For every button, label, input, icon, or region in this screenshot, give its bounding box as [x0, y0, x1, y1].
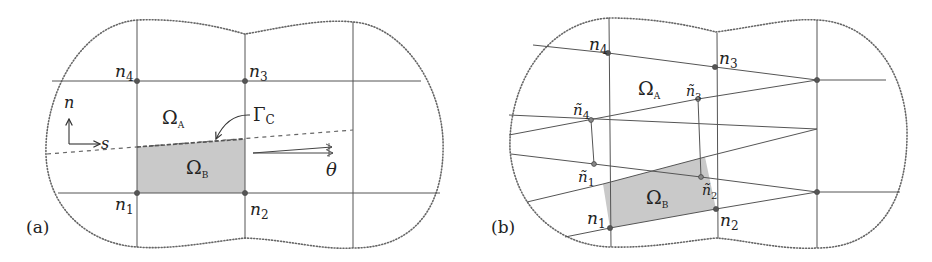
- label-theta: θ: [326, 159, 337, 180]
- label-tilde-n1: ñ1: [578, 168, 595, 189]
- node-n4-a: [134, 78, 139, 83]
- panel-b: (b) n4 n3 n1 n2 ñ4 ñ3 ñ1 ñ2 ΩA ΩB: [491, 18, 907, 248]
- label-n1-b: n1: [587, 208, 606, 231]
- node-n1-a: [134, 190, 139, 195]
- node-n3-a: [242, 78, 247, 83]
- label-omega-a-b: ΩA: [638, 77, 661, 101]
- node-right-bottom-b: [814, 189, 819, 194]
- node-n1-b: [607, 225, 612, 230]
- theta-ray-upper: [253, 147, 332, 153]
- label-n2-b: n2: [720, 210, 739, 233]
- label-n4-a: n4: [115, 61, 134, 84]
- node-right-top-b: [814, 77, 819, 82]
- label-n1-a: n1: [115, 194, 134, 217]
- node-n2-b: [713, 206, 718, 211]
- label-tilde-n4: ñ4: [573, 101, 590, 122]
- node-tilde-n1: [592, 162, 597, 167]
- mesh-line-tilde-left-b: [591, 120, 594, 164]
- domain-boundary-b: [510, 18, 907, 248]
- node-n3-b: [712, 64, 717, 69]
- panel-label-b: (b): [491, 217, 515, 237]
- label-n2-a: n2: [250, 199, 269, 222]
- label-n4-b: n4: [589, 34, 608, 57]
- node-n2-a: [242, 190, 247, 195]
- figure-canvas: (a) n4 n3 n1 n2 ΩA ΩB ΓC n s θ: [0, 0, 932, 262]
- label-gamma-c: ΓC: [253, 104, 275, 127]
- label-tangent-axis: s: [101, 134, 109, 153]
- label-n3-b: n3: [719, 48, 738, 71]
- panel-label-a: (a): [26, 217, 49, 237]
- panel-a: (a) n4 n3 n1 n2 ΩA ΩB ΓC n s θ: [26, 20, 443, 248]
- label-omega-a-a: ΩA: [162, 106, 185, 130]
- mesh-line-tilde-top-b: [599, 80, 817, 118]
- node-tilde-n2: [699, 175, 704, 180]
- label-n3-a: n3: [249, 61, 268, 84]
- mesh-line-mid-b: [509, 115, 817, 129]
- mesh-line-top-b: [533, 45, 817, 80]
- label-normal-axis: n: [64, 93, 74, 112]
- label-tilde-n3: ñ3: [686, 83, 701, 102]
